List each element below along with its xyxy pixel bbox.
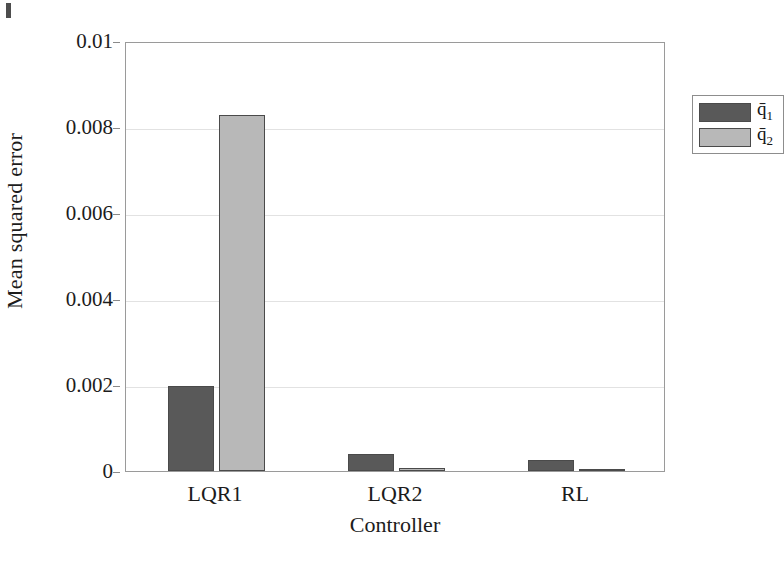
y-axis-tick-label: 0.002 xyxy=(66,375,113,396)
y-axis-tick-mark xyxy=(113,300,120,301)
y-axis-tick-label: 0.006 xyxy=(66,203,113,224)
bar-lqr2-series-1 xyxy=(348,454,394,471)
y-axis-tick-label: 0 xyxy=(103,461,114,482)
y-axis-tick-label: 0.004 xyxy=(66,289,113,310)
x-axis-tick-labels: LQR1LQR2RL xyxy=(125,481,665,511)
x-axis-tick-label: LQR1 xyxy=(125,481,305,507)
bar-rl-series-2 xyxy=(579,469,625,471)
legend-label-series-1: q̄1 xyxy=(757,99,773,125)
bar-rl-series-1 xyxy=(528,460,574,471)
x-axis-tick-label: RL xyxy=(485,481,665,507)
x-axis-title: Controller xyxy=(125,512,665,538)
bar-lqr1-series-2 xyxy=(219,115,265,471)
legend-item-series-2: q̄2 xyxy=(699,126,777,148)
legend-item-series-1: q̄1 xyxy=(699,101,777,123)
bar-lqr1-series-1 xyxy=(168,386,214,471)
gridline xyxy=(126,129,664,130)
chart-legend: q̄1 q̄2 xyxy=(692,95,784,154)
y-axis-tick-mark xyxy=(113,214,120,215)
legend-swatch-series-1 xyxy=(699,103,751,122)
gridline xyxy=(126,301,664,302)
legend-swatch-series-2 xyxy=(699,128,751,147)
y-axis-tick-mark xyxy=(113,128,120,129)
y-axis-tick-mark xyxy=(113,42,120,43)
y-axis-tick-label: 0.008 xyxy=(66,117,113,138)
y-axis-tick-label: 0.01 xyxy=(76,31,113,52)
bar-lqr2-series-2 xyxy=(399,468,445,471)
x-axis-tick-label: LQR2 xyxy=(305,481,485,507)
y-axis-tick-mark xyxy=(113,472,120,473)
legend-label-series-2: q̄2 xyxy=(757,124,773,150)
plot-area: q̄1 q̄2 xyxy=(125,42,665,472)
gridline xyxy=(126,215,664,216)
y-axis-tick-labels: 00.0020.0040.0060.0080.01 xyxy=(0,42,113,472)
y-axis-tick-mark xyxy=(113,386,120,387)
